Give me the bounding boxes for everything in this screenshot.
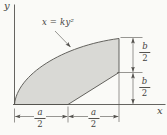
x-axis-label: x xyxy=(157,106,163,116)
diagram-svg xyxy=(0,0,167,135)
dimension-a-half-right: a 2 xyxy=(88,108,99,128)
dimension-b-half-bottom: b 2 xyxy=(139,77,150,97)
shaded-region xyxy=(15,39,120,105)
figure-canvas: y x x = ky² a 2 a 2 b 2 b 2 xyxy=(0,0,167,135)
dimension-numerator: b xyxy=(139,77,150,88)
dimension-numerator: a xyxy=(88,108,99,119)
dimension-b-half-top: b 2 xyxy=(139,42,150,62)
dimension-denominator: 2 xyxy=(88,119,99,129)
y-axis-label: y xyxy=(4,1,10,11)
dimension-a-half-left: a 2 xyxy=(34,108,45,128)
dimension-denominator: 2 xyxy=(139,53,150,63)
dimension-numerator: b xyxy=(139,42,150,53)
curve-label-leader-arrow xyxy=(55,31,71,47)
dimension-denominator: 2 xyxy=(139,88,150,98)
dimension-denominator: 2 xyxy=(34,119,45,129)
dimension-numerator: a xyxy=(34,108,45,119)
curve-equation-label: x = ky² xyxy=(42,18,74,27)
